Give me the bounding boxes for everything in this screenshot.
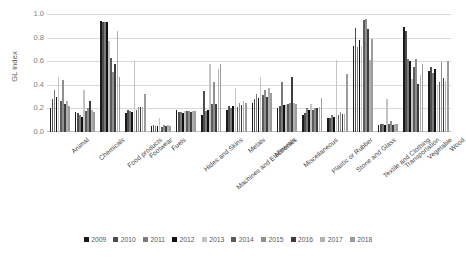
bar bbox=[93, 112, 95, 132]
legend-item[interactable]: 2018 bbox=[350, 236, 373, 243]
legend-swatch-icon bbox=[113, 237, 118, 242]
legend-label: 2009 bbox=[91, 236, 106, 243]
bar bbox=[245, 103, 247, 133]
y-tick-label: 0.8 bbox=[22, 34, 44, 42]
bar-group bbox=[300, 14, 325, 132]
legend-item[interactable]: 2014 bbox=[231, 236, 254, 243]
bar-group bbox=[426, 14, 451, 132]
legend-swatch-icon bbox=[291, 237, 296, 242]
chart-legend: 2009201020112012201320142015201620172018 bbox=[0, 236, 456, 243]
legend-swatch-icon bbox=[320, 237, 325, 242]
legend-item[interactable]: 2016 bbox=[291, 236, 314, 243]
legend-label: 2012 bbox=[180, 236, 195, 243]
legend-label: 2014 bbox=[239, 236, 254, 243]
y-tick-label: 0.6 bbox=[22, 57, 44, 65]
legend-item[interactable]: 2015 bbox=[261, 236, 284, 243]
bar-group bbox=[199, 14, 224, 132]
bar bbox=[295, 104, 297, 132]
legend-label: 2017 bbox=[328, 236, 343, 243]
y-tick-label: 0.4 bbox=[22, 81, 44, 89]
legend-item[interactable]: 2009 bbox=[84, 236, 107, 243]
bar bbox=[119, 77, 121, 132]
bar bbox=[68, 106, 70, 132]
bar-group bbox=[274, 14, 299, 132]
x-axis-category-labels: AnimalChemicalsFood productsFootwearFuel… bbox=[47, 133, 451, 213]
bar bbox=[422, 64, 424, 132]
legend-label: 2013 bbox=[209, 236, 224, 243]
bar bbox=[321, 98, 323, 132]
bar-groups bbox=[47, 14, 451, 132]
bar bbox=[270, 93, 272, 132]
bar-group bbox=[47, 14, 72, 132]
x-category-label: Fuels bbox=[170, 136, 187, 152]
bar bbox=[371, 39, 373, 132]
legend-swatch-icon bbox=[231, 237, 236, 242]
bar-group bbox=[375, 14, 400, 132]
y-tick-label: 0.0 bbox=[22, 128, 44, 136]
bar bbox=[346, 74, 348, 132]
legend-label: 2018 bbox=[357, 236, 372, 243]
legend-label: 2011 bbox=[150, 236, 165, 243]
x-category-label: Minerals bbox=[273, 136, 297, 158]
legend-swatch-icon bbox=[143, 237, 148, 242]
bar-group bbox=[350, 14, 375, 132]
y-axis-title: GL index bbox=[10, 37, 19, 97]
bar bbox=[169, 126, 171, 132]
x-category-label: Chemicals bbox=[98, 136, 126, 161]
bar-group bbox=[325, 14, 350, 132]
bar-group bbox=[148, 14, 173, 132]
x-category-label: Miscellaneous bbox=[302, 136, 339, 169]
bar-group bbox=[401, 14, 426, 132]
y-axis-tick-labels: 0.00.20.40.60.81.0 bbox=[20, 14, 44, 132]
legend-item[interactable]: 2010 bbox=[113, 236, 136, 243]
bar-group bbox=[72, 14, 97, 132]
legend-label: 2015 bbox=[268, 236, 283, 243]
x-category-label: Animal bbox=[70, 136, 90, 155]
bar-group bbox=[224, 14, 249, 132]
bar-group bbox=[123, 14, 148, 132]
bar bbox=[220, 64, 222, 132]
bar bbox=[447, 61, 449, 132]
legend-swatch-icon bbox=[261, 237, 266, 242]
x-category-label: Hides and Skins bbox=[203, 136, 245, 172]
bar-group bbox=[98, 14, 123, 132]
y-tick-label: 0.2 bbox=[22, 104, 44, 112]
bar bbox=[396, 124, 398, 132]
bar-group bbox=[249, 14, 274, 132]
x-category-label: Metals bbox=[247, 136, 267, 154]
legend-item[interactable]: 2012 bbox=[172, 236, 195, 243]
legend-item[interactable]: 2017 bbox=[320, 236, 343, 243]
legend-item[interactable]: 2011 bbox=[143, 236, 165, 243]
legend-swatch-icon bbox=[202, 237, 207, 242]
bar-group bbox=[173, 14, 198, 132]
bar bbox=[144, 94, 146, 132]
legend-swatch-icon bbox=[84, 237, 89, 242]
legend-label: 2010 bbox=[121, 236, 136, 243]
y-tick-label: 1.0 bbox=[22, 10, 44, 18]
bar bbox=[194, 111, 196, 132]
legend-swatch-icon bbox=[172, 237, 177, 242]
legend-swatch-icon bbox=[350, 237, 355, 242]
legend-item[interactable]: 2013 bbox=[202, 236, 225, 243]
legend-label: 2016 bbox=[298, 236, 313, 243]
